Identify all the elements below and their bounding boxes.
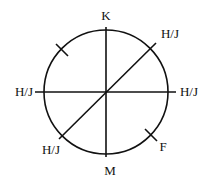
label-bottom-m: M xyxy=(104,163,116,178)
label-upper-right-hj: H/J xyxy=(161,26,179,41)
label-lower-left-hj: H/J xyxy=(42,142,60,157)
label-left-hj: H/J xyxy=(15,84,33,99)
circle-diagram: K H/J H/J H/J H/J F M xyxy=(0,0,208,183)
diagonal-axis-line xyxy=(59,43,156,139)
label-lower-right-f: F xyxy=(159,139,166,154)
label-right-hj: H/J xyxy=(180,84,198,99)
label-top-k: K xyxy=(101,8,111,23)
